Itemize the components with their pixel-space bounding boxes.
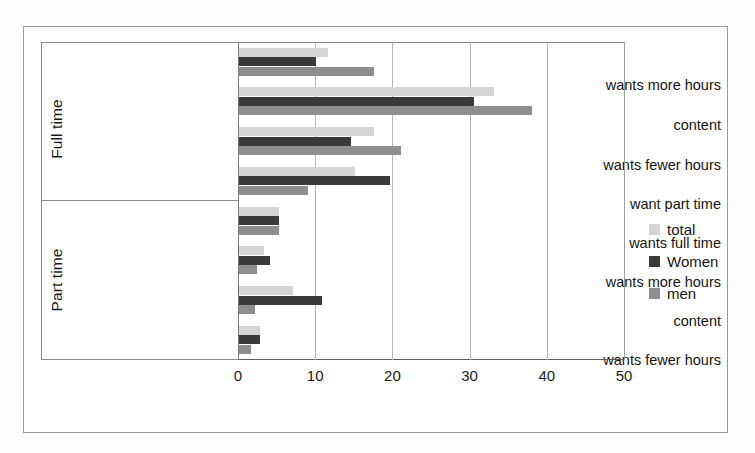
chart-frame: Full time Part time wants more hours con…	[23, 26, 728, 433]
chart-legend: totalWomenmen	[649, 213, 744, 309]
bar-men	[239, 226, 279, 235]
bar-total	[239, 286, 293, 295]
x-tick-label: 30	[450, 367, 490, 384]
legend-swatch-icon	[649, 288, 660, 299]
legend-item[interactable]: Women	[649, 245, 744, 277]
bar-total	[239, 87, 494, 96]
category-panel-part-time: Part time	[41, 200, 239, 360]
chart-screenshot: Full time Part time wants more hours con…	[0, 0, 755, 453]
legend-swatch-icon	[649, 256, 660, 267]
category-label: content	[673, 118, 721, 133]
group-title-full-time-label: Full time	[48, 99, 66, 158]
section-divider	[41, 200, 239, 201]
category-label: want part time	[630, 197, 721, 212]
bar-total	[239, 167, 355, 176]
bar-women	[239, 176, 390, 185]
bar-men	[239, 305, 255, 314]
x-tick-label: 10	[295, 367, 335, 384]
bar-men	[239, 146, 401, 155]
category-label: content	[673, 314, 721, 329]
bar-women	[239, 256, 270, 265]
bar-men	[239, 265, 257, 274]
legend-label: Women	[667, 253, 718, 270]
bar-men	[239, 67, 374, 76]
bar-women	[239, 216, 279, 225]
legend-item[interactable]: total	[649, 213, 744, 245]
gridline	[547, 42, 548, 360]
bar-total	[239, 246, 264, 255]
bar-men	[239, 345, 251, 354]
legend-label: men	[667, 285, 696, 302]
bar-women	[239, 57, 316, 66]
x-tick-label: 0	[218, 367, 258, 384]
legend-swatch-icon	[649, 224, 660, 235]
gridline	[624, 42, 625, 360]
bar-men	[239, 106, 532, 115]
x-tick-label: 50	[604, 367, 644, 384]
group-title-full-time: Full time	[42, 43, 72, 215]
x-tick-label: 40	[527, 367, 567, 384]
bar-women	[239, 296, 322, 305]
bar-total	[239, 127, 374, 136]
bar-total	[239, 48, 328, 57]
group-title-part-time: Part time	[42, 200, 72, 359]
x-tick-label: 20	[372, 367, 412, 384]
bar-total	[239, 207, 279, 216]
bar-women	[239, 137, 351, 146]
bar-men	[239, 186, 308, 195]
legend-label: total	[667, 221, 695, 238]
category-panel-full-time: Full time	[41, 42, 239, 216]
group-title-part-time-label: Part time	[48, 248, 66, 311]
bar-women	[239, 97, 474, 106]
plot-area	[238, 42, 624, 360]
legend-item[interactable]: men	[649, 277, 744, 309]
bar-total	[239, 326, 260, 335]
bar-women	[239, 335, 260, 344]
